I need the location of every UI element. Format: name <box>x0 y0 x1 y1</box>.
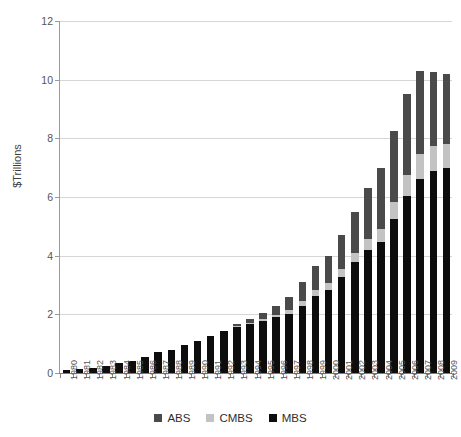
bar-segment-abs[interactable] <box>285 297 293 310</box>
plot-area: 024681012 <box>59 21 452 373</box>
bar-segment-abs[interactable] <box>390 131 398 202</box>
bar-segment-abs[interactable] <box>312 266 320 290</box>
bar-group[interactable] <box>403 94 411 373</box>
x-axis-tick-mark <box>60 373 61 378</box>
x-axis-tick-label: 2001 <box>345 360 354 380</box>
x-axis-tick-label: 2004 <box>385 360 394 380</box>
x-axis-tick-label: 1999 <box>319 360 328 380</box>
bar-group[interactable] <box>364 188 372 373</box>
y-axis-tick-label: 6 <box>47 192 53 203</box>
bar-segment-cmbs[interactable] <box>364 239 372 250</box>
bar-segment-abs[interactable] <box>416 71 424 154</box>
y-axis-tick-label: 8 <box>47 133 53 144</box>
bar-segment-abs[interactable] <box>430 72 438 146</box>
bar-segment-abs[interactable] <box>338 235 346 268</box>
x-axis-tick-label: 2007 <box>424 360 433 380</box>
bar-segment-abs[interactable] <box>443 74 451 144</box>
bar-segment-abs[interactable] <box>364 188 372 239</box>
bar-segment-abs[interactable] <box>377 168 385 229</box>
y-axis-tick-label: 0 <box>47 368 53 379</box>
legend-swatch-icon <box>269 414 277 422</box>
x-axis-tick-labels: 1980198119821983198419851986198719881989… <box>59 380 452 408</box>
y-axis-title: $Trillions <box>11 111 23 221</box>
bar-group[interactable] <box>390 131 398 373</box>
bar-group[interactable] <box>430 72 438 373</box>
x-axis-tick-label: 2008 <box>437 360 446 380</box>
bar-segment-mbs[interactable] <box>416 179 424 373</box>
x-axis-tick-label: 1988 <box>175 360 184 380</box>
x-axis-tick-label: 1990 <box>201 360 210 380</box>
x-axis-tick-label: 1998 <box>306 360 315 380</box>
bar-segment-abs[interactable] <box>403 94 411 175</box>
bar-segment-abs[interactable] <box>272 306 280 315</box>
bar-segment-abs[interactable] <box>325 256 333 284</box>
legend-item-cmbs[interactable]: CMBS <box>206 412 252 424</box>
x-axis-tick-label: 2000 <box>332 360 341 380</box>
x-axis-tick-label: 1984 <box>123 360 132 380</box>
bar-group[interactable] <box>351 212 359 373</box>
bar-segment-cmbs[interactable] <box>443 144 451 168</box>
bar-segment-mbs[interactable] <box>351 262 359 373</box>
legend-label: ABS <box>167 412 190 424</box>
stacked-bar-chart: $Trillions 024681012 1980198119821983198… <box>0 0 461 437</box>
bar-series-container <box>59 21 452 373</box>
x-axis-tick-label: 1989 <box>188 360 197 380</box>
x-axis-tick-label: 1997 <box>293 360 302 380</box>
bar-segment-mbs[interactable] <box>443 168 451 373</box>
x-axis-tick-label: 1986 <box>149 360 158 380</box>
x-axis-tick-label: 1995 <box>267 360 276 380</box>
bar-segment-mbs[interactable] <box>364 250 372 373</box>
bar-segment-cmbs[interactable] <box>377 229 385 243</box>
y-axis-tick-label: 2 <box>47 309 53 320</box>
x-axis-tick-label: 1987 <box>162 360 171 380</box>
legend-item-mbs[interactable]: MBS <box>269 412 307 424</box>
x-axis-tick-label: 1980 <box>70 360 79 380</box>
bar-segment-cmbs[interactable] <box>325 283 333 290</box>
x-axis-tick-label: 2006 <box>411 360 420 380</box>
x-axis-tick-label: 2005 <box>398 360 407 380</box>
bar-group[interactable] <box>338 235 346 373</box>
x-axis-tick-label: 1994 <box>254 360 263 380</box>
bar-segment-mbs[interactable] <box>390 219 398 373</box>
x-axis-tick-label: 1983 <box>109 360 118 380</box>
bar-group[interactable] <box>443 74 451 373</box>
x-axis-tick-label: 1996 <box>280 360 289 380</box>
bar-group[interactable] <box>377 168 385 373</box>
legend-label: CMBS <box>219 412 252 424</box>
y-axis-tick-label: 12 <box>41 16 53 27</box>
chart-legend: ABSCMBSMBS <box>0 412 461 424</box>
legend-swatch-icon <box>206 414 214 422</box>
bar-segment-cmbs[interactable] <box>416 154 424 179</box>
x-axis-tick-label: 1982 <box>96 360 105 380</box>
bar-segment-cmbs[interactable] <box>338 269 346 277</box>
bar-segment-cmbs[interactable] <box>351 253 359 262</box>
bar-segment-mbs[interactable] <box>403 196 411 373</box>
bar-segment-cmbs[interactable] <box>390 202 398 219</box>
bar-group[interactable] <box>312 266 320 373</box>
x-axis-tick-label: 1981 <box>83 360 92 380</box>
legend-item-abs[interactable]: ABS <box>154 412 190 424</box>
bar-segment-cmbs[interactable] <box>403 175 411 196</box>
bar-group[interactable] <box>325 256 333 373</box>
x-axis-tick-label: 1991 <box>214 360 223 380</box>
x-axis-tick-label: 2002 <box>358 360 367 380</box>
x-axis-tick-label: 1993 <box>240 360 249 380</box>
bar-segment-abs[interactable] <box>351 212 359 253</box>
bar-group[interactable] <box>416 71 424 373</box>
legend-label: MBS <box>282 412 307 424</box>
x-axis-tick-label: 1985 <box>136 360 145 380</box>
bar-segment-mbs[interactable] <box>377 242 385 373</box>
x-axis-tick-label: 2009 <box>450 360 459 380</box>
bar-segment-cmbs[interactable] <box>430 146 438 171</box>
legend-swatch-icon <box>154 414 162 422</box>
bar-segment-abs[interactable] <box>299 282 307 301</box>
bar-segment-mbs[interactable] <box>338 277 346 373</box>
y-axis-tick-label: 10 <box>41 74 53 85</box>
x-axis-tick-label: 1992 <box>227 360 236 380</box>
x-axis-tick-label: 2003 <box>371 360 380 380</box>
bar-segment-mbs[interactable] <box>430 171 438 373</box>
y-axis-tick-label: 4 <box>47 250 53 261</box>
